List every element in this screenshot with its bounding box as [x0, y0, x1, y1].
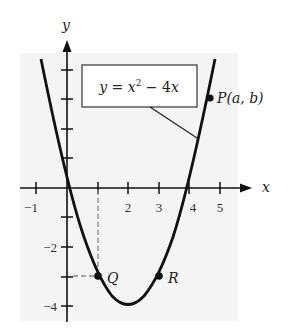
- x-tick-2: 2: [125, 200, 132, 215]
- label-q: Q: [107, 270, 119, 286]
- y-axis-label: y: [61, 17, 71, 33]
- y-axis-arrow-icon: [63, 40, 72, 52]
- point-q: [94, 272, 102, 280]
- x-axis-label: x: [262, 179, 270, 195]
- point-r: [155, 272, 163, 280]
- parabola-figure: y = x2 − 4x P(a, b) Q R x y −1 2 3 4 5 −…: [0, 0, 289, 335]
- point-p: [206, 94, 213, 101]
- x-tick-4: 4: [190, 200, 197, 215]
- y-tick--2: −2: [43, 240, 57, 255]
- y-tick--4: −4: [43, 299, 57, 314]
- x-tick--1: −1: [24, 200, 38, 215]
- x-tick-3: 3: [156, 200, 163, 215]
- label-r: R: [167, 270, 179, 286]
- x-tick-5: 5: [217, 200, 224, 215]
- x-axis-arrow-icon: [240, 184, 252, 193]
- label-p: P(a, b): [216, 90, 264, 106]
